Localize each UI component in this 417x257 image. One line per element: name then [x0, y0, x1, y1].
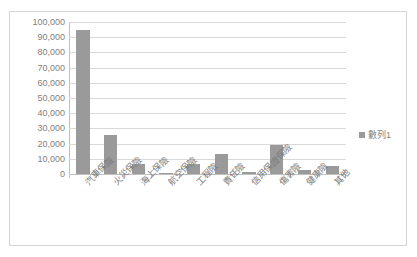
legend-label-series1: 數列1 — [368, 130, 391, 140]
x-axis-label-cell: 責任險 — [208, 178, 236, 238]
bar — [76, 30, 89, 174]
y-axis-tick-label: 10,000 — [13, 155, 65, 164]
x-axis-label-cell: 火災保險 — [97, 178, 125, 238]
x-axis-label-cell: 航空保險 — [152, 178, 180, 238]
x-axis-label-cell: 健康險 — [291, 178, 319, 238]
y-axis-tick-label: 80,000 — [13, 48, 65, 57]
y-axis-tick-label: 20,000 — [13, 140, 65, 149]
y-axis-tick-label: 100,000 — [13, 18, 65, 27]
bar-slot — [97, 22, 125, 174]
chart-container: 100,00090,00080,00070,00060,00050,00040,… — [9, 11, 407, 246]
x-axis-label-cell: 汽車保險 — [69, 178, 97, 238]
y-axis-tick-label: 30,000 — [13, 124, 65, 133]
bar-slot — [235, 22, 263, 174]
y-axis-tick-label: 60,000 — [13, 79, 65, 88]
bar-slot — [318, 22, 346, 174]
y-axis-tick-label: 40,000 — [13, 109, 65, 118]
chart-legend: 數列1 — [359, 130, 391, 140]
bar-slot — [124, 22, 152, 174]
bar-slot — [208, 22, 236, 174]
y-axis-tick-label: 70,000 — [13, 64, 65, 73]
bar-slot — [180, 22, 208, 174]
y-axis-labels: 100,00090,00080,00070,00060,00050,00040,… — [10, 22, 65, 174]
y-axis-tick-label: 0 — [13, 170, 65, 179]
bar-slot — [291, 22, 319, 174]
bar-slot — [152, 22, 180, 174]
x-axis-label-cell: 海上保險 — [124, 178, 152, 238]
bar-slot — [69, 22, 97, 174]
y-axis-tick-label: 90,000 — [13, 33, 65, 42]
x-axis-labels: 汽車保險火災保險海上保險航空保險工程險責任險信用保證保險傷害險健康險其他 — [69, 178, 346, 238]
x-axis-label-cell: 工程險 — [180, 178, 208, 238]
x-axis-label-cell: 其他 — [318, 178, 346, 238]
y-axis-tick-label: 50,000 — [13, 94, 65, 103]
x-axis-label-cell: 傷害險 — [263, 178, 291, 238]
legend-swatch-series1 — [359, 132, 365, 138]
bar-series-group — [69, 22, 346, 174]
x-axis-label-cell: 信用保證保險 — [235, 178, 263, 238]
